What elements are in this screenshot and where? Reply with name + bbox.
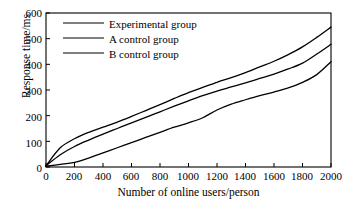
chart-figure: Response time/ms 600 500 400 300 200 100… <box>0 0 352 215</box>
series-line-experimental-group <box>46 27 331 166</box>
legend-sample-lines <box>63 23 104 53</box>
series-line-a-control-group <box>46 44 331 165</box>
series-line-b-control-group <box>46 62 331 166</box>
axis-frame <box>46 13 331 167</box>
plot-area <box>0 0 352 215</box>
data-curves <box>46 27 331 166</box>
axis-ticks <box>46 13 331 167</box>
